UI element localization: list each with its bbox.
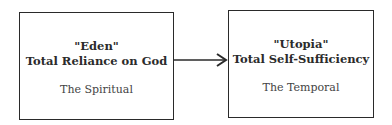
eden-box: "Eden" Total Reliance on God The Spiritu… xyxy=(19,12,174,120)
eden-quote: "Eden" xyxy=(20,39,173,54)
utopia-subtitle: The Temporal xyxy=(229,81,373,94)
eden-subtitle: The Spiritual xyxy=(20,83,173,96)
utopia-quote: "Utopia" xyxy=(229,37,373,52)
eden-title: Total Reliance on God xyxy=(20,54,173,69)
utopia-box: "Utopia" Total Self-Sufficiency The Temp… xyxy=(228,10,374,118)
utopia-title: Total Self-Sufficiency xyxy=(229,52,373,67)
arrow-right-icon xyxy=(174,50,228,70)
